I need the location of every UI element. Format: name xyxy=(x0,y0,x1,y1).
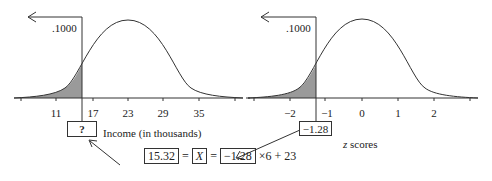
right-x-axis-label: z scores xyxy=(343,139,378,150)
right-tick-2: 2 xyxy=(431,108,437,119)
left-tick-17: 17 xyxy=(88,108,99,119)
z-value-box: −1.28 xyxy=(299,121,332,136)
left-tick-35: 35 xyxy=(194,108,205,119)
right-tick-0: 0 xyxy=(359,108,365,119)
equation-equals-1: = xyxy=(182,149,189,164)
equation-remainder: ×6 + 23 xyxy=(259,149,297,164)
right-tick-1: 1 xyxy=(395,108,401,119)
left-tick-11: 11 xyxy=(51,108,62,119)
right-shaded-tail xyxy=(248,65,316,98)
unknown-value-box: ? xyxy=(67,121,97,137)
right-area-label: .1000 xyxy=(286,23,311,34)
right-normal-curve xyxy=(248,19,478,98)
conversion-equation: 15.32 = X = −1.28 ×6 + 23 xyxy=(144,148,296,164)
equation-x-box: X xyxy=(192,148,207,164)
equation-z-box: −1.28 xyxy=(220,148,256,164)
left-tick-23: 23 xyxy=(123,108,134,119)
right-tick-neg1: −1 xyxy=(321,108,333,119)
left-x-axis-label: Income (in thousands) xyxy=(103,128,201,139)
left-tick-29: 29 xyxy=(158,108,169,119)
equation-result-box: 15.32 xyxy=(144,148,179,164)
equation-equals-2: = xyxy=(210,149,217,164)
right-tick-neg2: −2 xyxy=(284,108,296,119)
left-area-label: .1000 xyxy=(52,23,77,34)
left-normal-curve xyxy=(14,20,243,98)
z-scores-text: scores xyxy=(347,138,377,150)
